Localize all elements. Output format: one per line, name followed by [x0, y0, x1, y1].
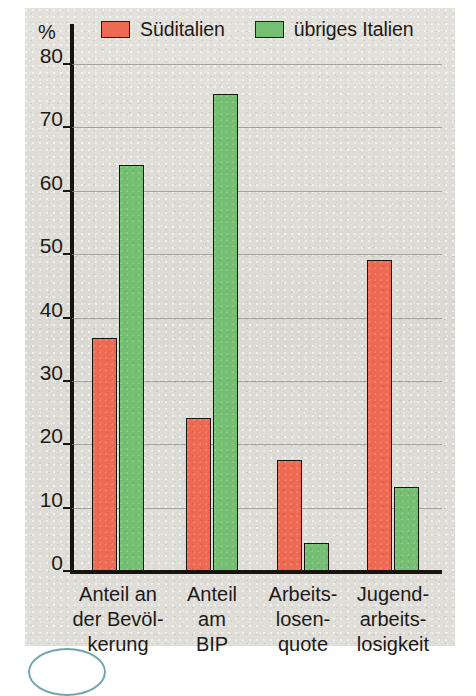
y-tick-40	[63, 317, 72, 319]
legend-swatch-uebriges-italien	[255, 21, 284, 38]
legend-entry-uebriges-italien: übriges Italien	[255, 18, 414, 41]
bar-group4-series2	[394, 487, 419, 571]
y-tick-60	[63, 190, 72, 192]
y-tick-label-30: 30	[40, 361, 63, 385]
bar-group1-series2	[119, 165, 144, 571]
y-tick-label-60: 60	[40, 171, 63, 195]
decorative-circle-icon	[28, 648, 106, 696]
bar-group1-series1	[92, 338, 117, 571]
x-axis-category-labels: Anteil an der Bevöl- kerungAnteil am BIP…	[25, 582, 455, 662]
y-axis-tick-labels: 01020304050607080	[25, 0, 63, 671]
x-label-group4: Jugend- arbeits- losigkeit	[338, 582, 448, 657]
bar-group4-series1	[367, 260, 392, 571]
y-tick-label-20: 20	[40, 424, 63, 448]
y-tick-80	[63, 63, 72, 65]
y-tick-label-40: 40	[40, 298, 63, 322]
plot-area	[72, 64, 442, 571]
gridline-70	[72, 127, 442, 128]
y-tick-label-80: 80	[40, 44, 63, 68]
legend-entry-sueditalien: Süditalien	[101, 18, 225, 41]
y-tick-0	[63, 570, 72, 572]
y-tick-20	[63, 443, 72, 445]
y-tick-label-0: 0	[51, 551, 63, 575]
bar-group3-series1	[277, 460, 302, 571]
legend-label-sueditalien: Süditalien	[140, 18, 225, 41]
bar-group3-series2	[304, 543, 329, 571]
legend-swatch-sueditalien	[101, 21, 130, 38]
gridline-80	[72, 64, 442, 65]
y-tick-30	[63, 380, 72, 382]
y-tick-label-10: 10	[40, 488, 63, 512]
bar-group2-series2	[213, 94, 238, 571]
bar-group2-series1	[186, 418, 211, 571]
chart-legend: Süditalien übriges Italien	[101, 16, 414, 42]
legend-label-uebriges-italien: übriges Italien	[294, 18, 414, 41]
y-tick-70	[63, 126, 72, 128]
y-tick-label-50: 50	[40, 234, 63, 258]
y-tick-label-70: 70	[40, 107, 63, 131]
y-tick-50	[63, 253, 72, 255]
y-tick-10	[63, 507, 72, 509]
